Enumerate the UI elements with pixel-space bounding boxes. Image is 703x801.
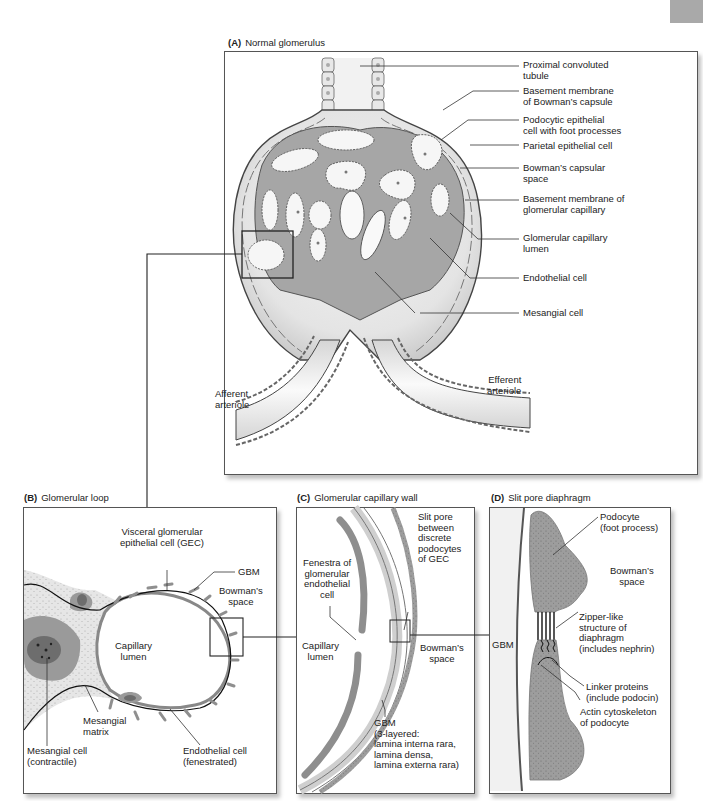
label-bowmans-space: Bowman’s space: [219, 586, 263, 607]
label-glomerular-capillary-lumen: Glomerular capillary lumen: [523, 233, 607, 254]
label-fenestra: Fenestra of glomerular endothelial cell: [303, 558, 351, 600]
label-visceral-gec: Visceral glomerular epithelial cell (GEC…: [120, 527, 204, 548]
label-bowmans-capsular-space: Bowman’s capsular space: [523, 163, 605, 184]
label-capillary-lumen-c: Capillary lumen: [302, 641, 339, 662]
label-gbm-d: GBM: [492, 640, 514, 651]
label-endothelial-cell-fenestrated: Endothelial cell (fenestrated): [183, 746, 247, 767]
label-capillary-lumen: Capillary lumen: [115, 641, 152, 662]
label-zipper-diaphragm: Zipper-like structure of diaphragm (incl…: [579, 612, 655, 654]
label-mesangial-cell: Mesangial cell: [523, 308, 583, 319]
label-slit-pore: Slit pore between discrete podocytes of …: [418, 512, 461, 565]
label-gbm-3-layered: GBM (3-layered: lamina interna rara, lam…: [374, 718, 459, 771]
glomerulus-illustration: [233, 58, 530, 445]
label-proximal-convoluted-tubule: Proximal convoluted tubule: [523, 60, 609, 81]
label-linker-proteins: Linker proteins (include podocin): [586, 682, 658, 703]
label-podocytic-epithelial-cell: Podocytic epithelial cell with foot proc…: [523, 115, 621, 136]
label-podocyte: Podocyte (foot process): [600, 512, 658, 533]
label-bowmans-space-c: Bowman’s space: [420, 643, 464, 664]
label-basement-membrane-glomerular-capillary: Basement membrane of glomerular capillar…: [523, 194, 624, 215]
label-bowmans-space-d: Bowman’s space: [610, 566, 654, 587]
label-actin-cytoskeleton: Actin cytoskeleton of podocyte: [580, 707, 657, 728]
label-parietal-epithelial-cell: Parietal epithelial cell: [523, 141, 612, 152]
label-mesangial-cell-contractile: Mesangial cell (contractile): [27, 746, 87, 767]
label-mesangial-matrix: Mesangial matrix: [83, 716, 126, 737]
label-efferent-arteriole: Efferent arteriole: [487, 375, 521, 396]
label-gbm: GBM: [238, 567, 260, 578]
label-basement-membrane-bowmans-capsule: Basement membrane of Bowman’s capsule: [523, 86, 614, 107]
label-afferent-arteriole: Afferent arteriole: [215, 389, 249, 410]
label-endothelial-cell: Endothelial cell: [523, 273, 587, 284]
